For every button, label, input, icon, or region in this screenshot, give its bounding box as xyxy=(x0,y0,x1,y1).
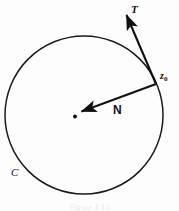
figure-caption: Figure 4.14 xyxy=(0,203,179,211)
curve-circle xyxy=(5,36,163,194)
center-point-dot xyxy=(73,115,77,119)
normal-vector-label: N xyxy=(113,104,122,116)
tangent-vector-arrow xyxy=(127,15,157,84)
figure-canvas xyxy=(0,0,179,211)
point-z0-subscript: 0 xyxy=(164,75,168,83)
figure-container: T z0 N C Figure 4.14 xyxy=(0,0,179,211)
curve-label: C xyxy=(11,167,18,178)
tangent-vector-label: T xyxy=(131,4,138,15)
point-z0-label: z0 xyxy=(160,71,167,83)
